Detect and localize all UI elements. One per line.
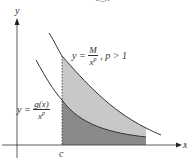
lower-curve-label: y = g(x) xp bbox=[17, 100, 50, 121]
upper-fraction: M xp bbox=[88, 46, 98, 67]
top-fragment: b_n bbox=[96, 0, 110, 3]
upper-lhs: y = bbox=[72, 50, 86, 61]
upper-condition: , p > 1 bbox=[100, 50, 127, 61]
c-label: c bbox=[59, 149, 63, 159]
lower-denominator: xp bbox=[38, 110, 45, 121]
diagram-canvas bbox=[0, 0, 187, 161]
x-axis-label: x bbox=[183, 140, 187, 150]
y-axis-arrow-icon bbox=[15, 18, 20, 25]
upper-curve-label: y = M xp , p > 1 bbox=[72, 46, 127, 67]
lower-numerator: g(x) bbox=[33, 100, 50, 110]
y-axis-label: y bbox=[15, 6, 19, 16]
lower-fraction: g(x) xp bbox=[33, 100, 50, 121]
upper-numerator: M bbox=[88, 46, 98, 56]
lower-lhs: y = bbox=[17, 104, 31, 115]
x-axis-arrow-icon bbox=[176, 143, 182, 148]
upper-denominator: xp bbox=[89, 56, 96, 67]
